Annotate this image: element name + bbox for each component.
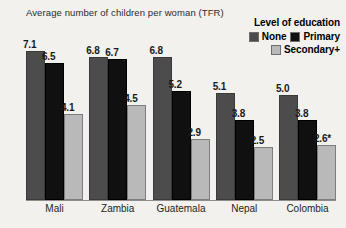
- x-axis-labels: MaliZambiaGuatemalaNepalColombia: [26, 203, 336, 214]
- x-axis-baseline: [26, 200, 336, 201]
- bar-value-label: 5.1: [213, 81, 226, 92]
- bar-value-label: 7.1: [23, 39, 36, 50]
- bar-nepal-none[interactable]: 5.1: [216, 40, 235, 200]
- x-axis-label-colombia: Colombia: [279, 203, 336, 214]
- bar-group-guatemala: 6.85.22.9: [153, 40, 210, 200]
- bar-rect: [108, 59, 127, 200]
- x-axis-label-guatemala: Guatemala: [153, 203, 210, 214]
- bar-colombia-none[interactable]: 5.0: [279, 40, 298, 200]
- chart-title: Average number of children per woman (TF…: [26, 7, 224, 18]
- bar-group-colombia: 5.03.82.6*: [279, 40, 336, 200]
- bar-group-zambia: 6.86.74.5: [89, 40, 146, 200]
- bar-rect: [26, 51, 45, 200]
- bar-value-label: 2.5: [251, 135, 264, 146]
- bar-rect: [89, 57, 108, 200]
- bar-value-label: 6.8: [86, 45, 99, 56]
- bar-value-label: 4.5: [124, 93, 137, 104]
- bar-value-label: 6.8: [150, 45, 163, 56]
- bar-zambia-primary[interactable]: 6.7: [108, 40, 127, 200]
- bar-nepal-primary[interactable]: 3.8: [235, 40, 254, 200]
- bar-rect: [45, 63, 64, 200]
- bar-value-label: 2.6*: [314, 133, 331, 144]
- bar-rect: [127, 105, 146, 200]
- bar-rect: [191, 139, 210, 200]
- bar-nepal-secondaryplus[interactable]: 2.5: [254, 40, 273, 200]
- bar-value-label: 6.5: [42, 51, 55, 62]
- bar-rect: [254, 147, 273, 200]
- bar-zambia-none[interactable]: 6.8: [89, 40, 108, 200]
- x-axis-label-zambia: Zambia: [89, 203, 146, 214]
- bar-colombia-secondaryplus[interactable]: 2.6*: [317, 40, 336, 200]
- plot-area: 7.16.54.16.86.74.56.85.22.95.13.82.55.03…: [26, 40, 336, 201]
- bar-value-label: 4.1: [61, 102, 74, 113]
- legend-title: Level of education: [210, 17, 340, 29]
- bar-groups: 7.16.54.16.86.74.56.85.22.95.13.82.55.03…: [26, 40, 336, 200]
- bar-rect: [235, 120, 254, 200]
- bar-value-label: 3.8: [295, 108, 308, 119]
- bar-value-label: 6.7: [105, 47, 118, 58]
- bar-value-label: 2.9: [188, 127, 201, 138]
- tfr-grouped-bar-chart: Average number of children per woman (TF…: [0, 0, 346, 228]
- bar-mali-primary[interactable]: 6.5: [45, 40, 64, 200]
- bar-mali-none[interactable]: 7.1: [26, 40, 45, 200]
- bar-guatemala-primary[interactable]: 5.2: [172, 40, 191, 200]
- bar-value-label: 3.8: [232, 108, 245, 119]
- bar-mali-secondaryplus[interactable]: 4.1: [64, 40, 83, 200]
- x-axis-label-nepal: Nepal: [216, 203, 273, 214]
- bar-guatemala-none[interactable]: 6.8: [153, 40, 172, 200]
- bar-zambia-secondaryplus[interactable]: 4.5: [127, 40, 146, 200]
- bar-group-nepal: 5.13.82.5: [216, 40, 273, 200]
- bar-rect: [298, 120, 317, 200]
- bar-guatemala-secondaryplus[interactable]: 2.9: [191, 40, 210, 200]
- x-axis-label-mali: Mali: [26, 203, 83, 214]
- bar-rect: [64, 114, 83, 200]
- bar-value-label: 5.2: [169, 79, 182, 90]
- bar-rect: [317, 145, 336, 200]
- bar-colombia-primary[interactable]: 3.8: [298, 40, 317, 200]
- bar-group-mali: 7.16.54.1: [26, 40, 83, 200]
- bar-value-label: 5.0: [276, 83, 289, 94]
- bar-rect: [172, 91, 191, 200]
